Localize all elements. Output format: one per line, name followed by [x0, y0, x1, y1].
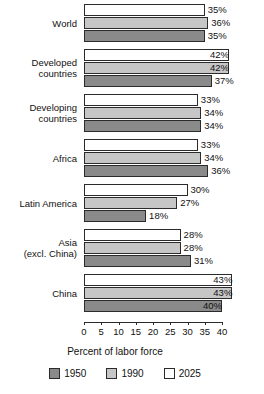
x-axis-title: Percent of labor force — [0, 346, 230, 357]
bar-row: 18% — [82, 210, 264, 222]
category-label: Africa — [0, 153, 82, 164]
x-axis-tick — [222, 322, 223, 325]
bar-value-label: 28% — [181, 228, 203, 241]
bar-row: 27% — [82, 197, 264, 209]
x-axis-tick-label: 35 — [199, 326, 210, 337]
bar-row: 36% — [82, 165, 264, 177]
category-label: World — [0, 18, 82, 29]
x-axis-tick — [188, 322, 189, 325]
chart-group: Developing countries33%34%34% — [0, 94, 264, 132]
x-axis-tick-label: 30 — [182, 326, 193, 337]
bar-value-label: 35% — [205, 3, 227, 16]
bar-1950 — [84, 210, 146, 222]
legend-label: 1990 — [121, 368, 143, 379]
legend-swatch-icon — [106, 368, 117, 379]
bar-1990 — [84, 242, 181, 254]
bar-value-label: 42% — [82, 61, 232, 74]
bar-row: 28% — [82, 242, 264, 254]
bar-value-label: 37% — [212, 74, 234, 87]
x-axis-tick — [205, 322, 206, 325]
legend-item-1990: 1990 — [106, 368, 143, 379]
x-axis-tick — [170, 322, 171, 325]
bar-value-label: 34% — [201, 119, 223, 132]
bar-row: 33% — [82, 94, 264, 106]
bar-row: 30% — [82, 184, 264, 196]
group-bars: 43%43%40% — [82, 274, 264, 312]
group-bars: 28%28%31% — [82, 229, 264, 267]
bar-row: 28% — [82, 229, 264, 241]
x-axis-tick — [101, 322, 102, 325]
x-axis-tick-label: 5 — [99, 326, 104, 337]
bar-row: 31% — [82, 255, 264, 267]
bar-1950 — [84, 120, 201, 132]
bar-row: 37% — [82, 75, 264, 87]
chart-group: China43%43%40% — [0, 274, 264, 312]
bar-value-label: 35% — [205, 29, 227, 42]
group-bars: 33%34%34% — [82, 94, 264, 132]
x-axis-tick — [119, 322, 120, 325]
bar-value-label: 31% — [191, 254, 213, 267]
chart-legend: 195019902025 — [0, 368, 250, 379]
bar-value-label: 33% — [198, 93, 220, 106]
bar-value-label: 27% — [177, 196, 199, 209]
bar-1950 — [84, 255, 191, 267]
bar-row: 43% — [82, 274, 264, 286]
bar-value-label: 28% — [181, 241, 203, 254]
bar-value-label: 34% — [201, 106, 223, 119]
bar-value-label: 43% — [82, 286, 235, 299]
bar-row: 34% — [82, 120, 264, 132]
bar-row: 42% — [82, 62, 264, 74]
x-axis-tick — [136, 322, 137, 325]
bar-value-label: 34% — [201, 151, 223, 164]
x-axis-tick — [153, 322, 154, 325]
bar-value-label: 43% — [82, 273, 235, 286]
legend-label: 2025 — [179, 368, 201, 379]
bar-1950 — [84, 75, 212, 87]
bar-row: 43% — [82, 287, 264, 299]
x-axis-tick-label: 20 — [148, 326, 159, 337]
x-axis-tick-label: 15 — [130, 326, 141, 337]
bar-1990 — [84, 107, 201, 119]
x-axis-tick-label: 10 — [113, 326, 124, 337]
bar-value-label: 30% — [188, 183, 210, 196]
bar-2025 — [84, 139, 198, 151]
bar-row: 35% — [82, 4, 264, 16]
category-label: Asia (excl. China) — [0, 237, 82, 259]
bar-row: 33% — [82, 139, 264, 151]
bar-1990 — [84, 17, 208, 29]
group-bars: 30%27%18% — [82, 184, 264, 222]
bar-1950 — [84, 165, 208, 177]
bar-value-label: 42% — [82, 48, 232, 61]
legend-item-2025: 2025 — [164, 368, 201, 379]
chart-group: Developed countries42%42%37% — [0, 49, 264, 87]
bar-2025 — [84, 94, 198, 106]
legend-label: 1950 — [64, 368, 86, 379]
category-label: Developing countries — [0, 102, 82, 124]
category-label: Latin America — [0, 198, 82, 209]
chart-group: World35%36%35% — [0, 4, 264, 42]
bar-row: 42% — [82, 49, 264, 61]
bar-1990 — [84, 152, 201, 164]
legend-item-1950: 1950 — [49, 368, 86, 379]
labor-force-bar-chart: World35%36%35%Developed countries42%42%3… — [0, 0, 264, 394]
group-bars: 33%34%36% — [82, 139, 264, 177]
bar-value-label: 33% — [198, 138, 220, 151]
chart-plot-area: World35%36%35%Developed countries42%42%3… — [0, 4, 264, 319]
bar-row: 35% — [82, 30, 264, 42]
legend-swatch-icon — [49, 368, 60, 379]
x-axis-tick-label: 25 — [165, 326, 176, 337]
chart-group: Latin America30%27%18% — [0, 184, 264, 222]
bar-row: 36% — [82, 17, 264, 29]
category-label: Developed countries — [0, 57, 82, 79]
bar-value-label: 36% — [208, 164, 230, 177]
bar-2025 — [84, 229, 181, 241]
legend-swatch-icon — [164, 368, 175, 379]
category-label: China — [0, 288, 82, 299]
chart-group: Asia (excl. China)28%28%31% — [0, 229, 264, 267]
x-axis-tick-label: 0 — [81, 326, 86, 337]
bar-row: 34% — [82, 152, 264, 164]
chart-group: Africa33%34%36% — [0, 139, 264, 177]
bar-row: 40% — [82, 300, 264, 312]
x-axis-tick-label: 40 — [217, 326, 228, 337]
bar-1990 — [84, 197, 177, 209]
